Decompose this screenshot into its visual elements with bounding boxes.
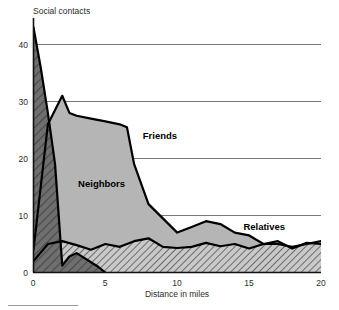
y-tick-10: 10 bbox=[19, 211, 29, 221]
label-friends: Friends bbox=[143, 130, 177, 141]
y-tick-0: 0 bbox=[23, 268, 28, 278]
x-tick-20: 20 bbox=[316, 278, 326, 288]
y-tick-30: 30 bbox=[19, 97, 29, 107]
x-tick-0: 0 bbox=[31, 278, 36, 288]
x-tick-10: 10 bbox=[172, 278, 182, 288]
label-relatives: Relatives bbox=[243, 221, 285, 232]
chart-container: 40 30 20 10 0 0 5 10 15 20 Social contac… bbox=[0, 0, 339, 310]
y-axis-title: Social contacts bbox=[33, 6, 90, 16]
footer-divider bbox=[8, 305, 78, 306]
x-axis-ticks: 0 5 10 15 20 bbox=[31, 278, 326, 288]
x-axis-title: Distance in miles bbox=[145, 289, 209, 299]
y-tick-40: 40 bbox=[19, 40, 29, 50]
label-neighbors: Neighbors bbox=[78, 178, 125, 189]
y-tick-20: 20 bbox=[19, 154, 29, 164]
series-areas bbox=[34, 27, 322, 272]
y-axis-ticks: 40 30 20 10 0 bbox=[19, 40, 29, 278]
x-tick-15: 15 bbox=[244, 278, 254, 288]
x-tick-5: 5 bbox=[103, 278, 108, 288]
social-contacts-area-chart: 40 30 20 10 0 0 5 10 15 20 Social contac… bbox=[0, 0, 339, 310]
